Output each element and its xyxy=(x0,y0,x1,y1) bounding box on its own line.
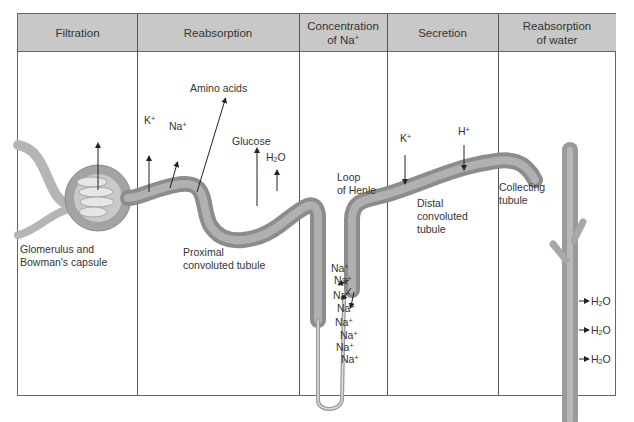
amino-acids-arrow xyxy=(197,100,225,192)
label-glucose: Glucose xyxy=(232,135,271,148)
na-loop-label: Na+ xyxy=(334,274,352,287)
label-proximal-tubule: Proximal convoluted tubule xyxy=(183,246,265,272)
label-h2o: H2O xyxy=(266,151,286,164)
label-h-secretion: H+ xyxy=(458,125,470,138)
na-loop-label: Na+ xyxy=(333,289,351,302)
water-out-label: H2O xyxy=(591,353,611,366)
water-out-label: H2O xyxy=(591,295,611,308)
label-na: Na+ xyxy=(169,120,187,133)
label-collecting-tubule: Collecting tubule xyxy=(499,181,545,207)
label-k-secretion: K+ xyxy=(400,132,411,145)
na-loop-label: Na+ xyxy=(335,316,353,329)
na-loop-label: Na+ xyxy=(337,302,355,315)
water-out-label: H2O xyxy=(591,324,611,337)
label-distal-tubule: Distal convoluted tubule xyxy=(417,197,468,236)
collecting-duct xyxy=(553,150,583,420)
tubule xyxy=(128,160,535,409)
label-amino-acids: Amino acids xyxy=(190,82,247,95)
label-glomerulus: Glomerulus and Bowman's capsule xyxy=(20,243,107,269)
label-loop-of-henle: Loop of Henle xyxy=(337,171,376,197)
na-loop-label: Na+ xyxy=(341,353,359,366)
nephron-illustration xyxy=(0,0,634,422)
label-k: K+ xyxy=(144,114,155,127)
